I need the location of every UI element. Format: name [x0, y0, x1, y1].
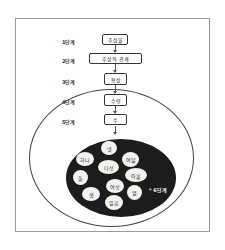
step-4-label: 4단계	[62, 98, 75, 105]
arrow-down-icon	[115, 106, 116, 113]
number-circle-net: 넷	[101, 141, 117, 155]
step-4-box: 수량	[104, 94, 127, 106]
number-circle-dul: 둘	[73, 170, 88, 185]
step-1-label: 1단계	[62, 38, 75, 45]
number-circle-ahop: 아홉	[125, 168, 147, 182]
number-circle-daseot: 다섯	[98, 160, 119, 174]
step-3-label: 3단계	[62, 78, 75, 85]
step-2-box: 추상적 관계	[89, 53, 142, 64]
arrow-down-icon	[115, 85, 116, 93]
step-5-label: 5단계	[62, 118, 75, 125]
step-2-label: 2단계	[62, 57, 75, 64]
arrow-down-icon	[115, 126, 116, 134]
step-5-box: 수	[104, 114, 127, 125]
arrow-down-icon	[115, 64, 116, 72]
arrow-down-icon	[115, 45, 116, 52]
step-1-box: 추상물	[102, 34, 128, 45]
number-circle-ilgop: 일곱	[105, 195, 123, 210]
number-circle-hana: 하나	[76, 152, 94, 166]
number-circle-yeodeol: 여덟	[122, 152, 139, 167]
step-6-label: * 6단계	[149, 186, 167, 193]
number-circle-yeoseot: 여섯	[106, 179, 124, 193]
step-3-box: 형상	[104, 73, 127, 85]
number-circle-set: 셋	[82, 187, 100, 201]
number-circle-yeol: 열	[127, 185, 142, 200]
